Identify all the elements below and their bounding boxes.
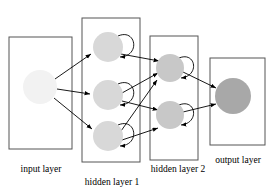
- hidden-layer-2-label: hidden layer 2: [151, 164, 206, 174]
- hidden1-node-1: [93, 32, 123, 62]
- network-diagram-canvas: input layer hidden layer 1 hidden layer …: [0, 0, 275, 191]
- hidden2-node-1: [156, 54, 184, 82]
- hidden-layer-1-label: hidden layer 1: [85, 177, 140, 187]
- input-layer-label: input layer: [21, 164, 63, 174]
- neural-network-figure: input layer hidden layer 1 hidden layer …: [0, 0, 275, 191]
- hidden1-node-3: [93, 121, 123, 151]
- output-layer-label: output layer: [215, 155, 261, 165]
- hidden1-node-2: [93, 80, 123, 110]
- output-node: [215, 78, 251, 114]
- input-node: [23, 70, 57, 104]
- layer-labels: input layer hidden layer 1 hidden layer …: [21, 155, 262, 187]
- hidden2-node-2: [156, 101, 184, 129]
